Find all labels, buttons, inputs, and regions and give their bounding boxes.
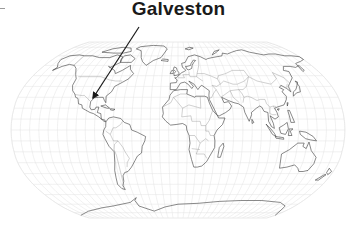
svalbard-landmass <box>185 47 193 50</box>
country-border <box>244 96 265 100</box>
country-border <box>114 150 124 187</box>
great-britain-landmass <box>173 67 179 76</box>
iceland-landmass <box>161 59 168 61</box>
borneo-landmass <box>279 122 288 134</box>
country-border <box>239 90 244 103</box>
country-border <box>230 91 239 103</box>
greenland-landmass <box>136 45 167 65</box>
java-landmass <box>275 137 284 140</box>
country-border <box>206 126 214 136</box>
graticule <box>11 42 345 218</box>
madagascar-landmass <box>218 143 224 157</box>
country-border <box>265 99 276 107</box>
japan-landmass <box>293 81 300 96</box>
pointer-arrow <box>93 27 139 98</box>
country-border <box>182 108 213 125</box>
novaya-zemlya-landmass <box>212 50 219 55</box>
europe-asia-landmass <box>170 50 304 129</box>
south-america-landmass <box>103 117 146 190</box>
ireland-landmass <box>170 70 173 73</box>
north-america-landmass <box>53 55 134 122</box>
country-border <box>78 77 122 81</box>
country-border <box>114 141 118 150</box>
country-border <box>106 131 111 134</box>
country-border <box>192 149 200 150</box>
world-map <box>0 0 357 227</box>
australia-landmass <box>280 142 317 172</box>
hainan-landmass <box>277 109 279 111</box>
scandinavia-baltic-landmass <box>186 60 196 70</box>
country-border <box>197 77 203 81</box>
taiwan-landmass <box>287 103 288 106</box>
country-border <box>163 94 187 107</box>
country-border <box>74 56 85 66</box>
hispaniola-landmass <box>110 109 115 111</box>
sri-lanka-landmass <box>252 119 254 123</box>
